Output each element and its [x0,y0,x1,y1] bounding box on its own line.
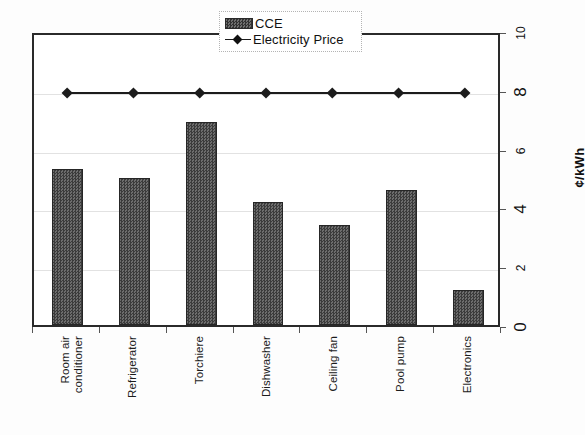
diamond-marker-icon [128,87,139,98]
x-axis-label: Dishwasher [260,336,273,435]
x-axis-label: Refrigerator [126,336,139,435]
legend-label-electricity-price: Electricity Price [253,32,344,47]
diamond-marker-icon [260,87,271,98]
x-axis-tick [433,327,434,333]
y-axis-tick-label: 2 [511,253,531,283]
y-axis-title: ¢/kWh [572,123,585,213]
chart-figure: Room air conditionerRefrigeratorTorchier… [0,0,585,435]
y-axis-tick [500,33,506,34]
x-axis-label: Room air conditioner [59,336,84,435]
diamond-marker-icon [393,87,404,98]
y-axis-tick [500,327,506,328]
chart-legend: CCE Electricity Price [219,11,362,52]
x-axis-label: Ceiling fan [327,336,340,435]
y-axis-tick [500,268,506,269]
x-axis-label: Electronics [461,336,474,435]
legend-label-cce: CCE [255,16,283,31]
x-axis-tick [99,327,100,333]
legend-item-electricity-price: Electricity Price [225,31,356,47]
bar-swatch-icon [225,18,253,29]
y-axis-tick-label: 10 [511,18,531,48]
x-axis-tick [32,327,33,333]
line-diamond-icon [225,34,251,45]
diamond-marker-icon [459,87,470,98]
diamond-marker-icon [327,87,338,98]
y-axis-tick-label: 8 [511,77,531,107]
y-axis-tick-label: 6 [511,136,531,166]
x-axis-tick [233,327,234,333]
legend-item-cce: CCE [225,15,356,31]
x-axis-tick [166,327,167,333]
x-axis-label: Torchiere [193,336,206,435]
y-axis-tick [500,151,506,152]
diamond-marker-icon [62,87,73,98]
x-axis-tick [366,327,367,333]
y-axis-tick [500,209,506,210]
diamond-marker-icon [194,87,205,98]
plot-area [32,33,500,327]
x-axis-label: Pool pump [394,336,407,435]
line-series-electricity-price [34,35,498,325]
x-axis-tick [299,327,300,333]
y-axis-tick [500,92,506,93]
y-axis-tick-label: 4 [511,194,531,224]
y-axis-tick-label: 0 [511,312,531,342]
